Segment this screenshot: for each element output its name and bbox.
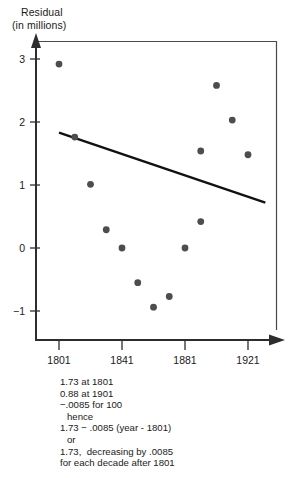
regression-trend-line xyxy=(59,133,265,203)
y-tick-label: −1 xyxy=(13,305,25,317)
data-point xyxy=(134,279,141,286)
data-point xyxy=(182,245,189,252)
data-point xyxy=(245,151,252,158)
caption-line: hence xyxy=(60,411,290,423)
caption-block: 1.73 at 18010.88 at 1901−.0085 for 100he… xyxy=(60,376,290,469)
y-tick-label: 0 xyxy=(19,242,25,254)
y-tick-label: 1 xyxy=(19,179,25,191)
data-point xyxy=(56,61,63,68)
data-point xyxy=(71,134,78,141)
data-point xyxy=(150,304,157,311)
x-tick-label: 1881 xyxy=(173,354,197,366)
caption-line: 1.73 − .0085 (year - 1801) xyxy=(60,422,290,434)
caption-line: 0.88 at 1901 xyxy=(60,388,290,400)
data-point-series xyxy=(56,61,252,311)
data-point xyxy=(103,226,110,233)
caption-line: 1.73, decreasing by .0085 xyxy=(60,446,290,458)
trend-line-segment xyxy=(59,133,265,203)
y-tick-label: 2 xyxy=(19,116,25,128)
x-axis-ticks: 1801184118811921 xyxy=(47,340,260,366)
caption-line: for each decade after 1801 xyxy=(60,457,290,469)
scatter-plot-canvas: 3210−1 1801184118811921 xyxy=(0,0,294,370)
caption-line: 1.73 at 1801 xyxy=(60,376,290,388)
y-axis xyxy=(31,33,41,341)
plot-frame xyxy=(36,42,277,331)
data-point xyxy=(119,245,126,252)
caption-line: −.0085 for 100 xyxy=(60,399,290,411)
y-axis-arrowhead xyxy=(31,33,41,48)
x-axis-arrowhead xyxy=(269,335,285,346)
data-point xyxy=(197,218,204,225)
data-point xyxy=(197,148,204,155)
x-tick-label: 1921 xyxy=(236,354,260,366)
x-tick-label: 1841 xyxy=(110,354,134,366)
data-point xyxy=(229,117,236,124)
y-tick-label: 3 xyxy=(19,53,25,65)
residual-plot-figure: Residual (in millions) 3210−1 1801184118… xyxy=(0,0,294,478)
x-tick-label: 1801 xyxy=(47,354,71,366)
data-point xyxy=(213,82,220,89)
data-point xyxy=(87,181,94,188)
caption-line: or xyxy=(60,434,290,446)
data-point xyxy=(166,293,173,300)
